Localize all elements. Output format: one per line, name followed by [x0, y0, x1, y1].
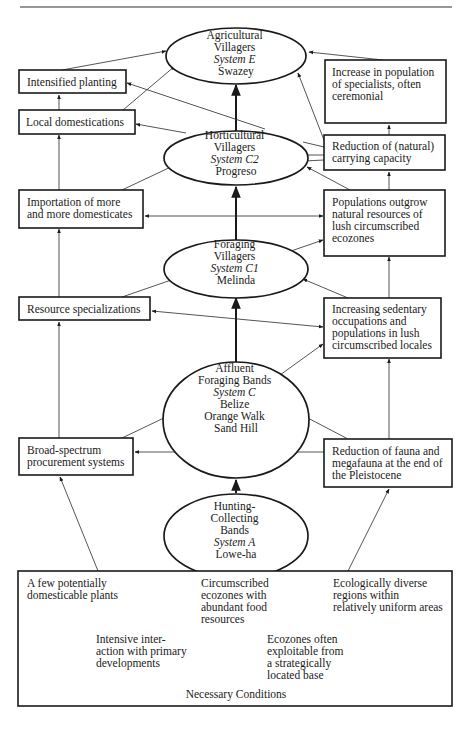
ellipse-affluent-foraging: Affluent Foraging Bands System C Belize … [163, 362, 309, 478]
flow-diagram: Agricultural Villagers System E Swazey H… [0, 0, 469, 733]
box-reduction-carrying: Reduction of (natural) carrying capacity [324, 135, 445, 170]
condition-few-plants: A few potentially domesticable plants [27, 577, 119, 602]
arrow-specialists-to-e [309, 52, 383, 60]
arrow-reduction-to-e [298, 73, 324, 140]
arrow-sedentary-to-c1 [303, 279, 348, 298]
box-importation-text: Importation of more and more domesticate… [27, 196, 133, 220]
arrow-resource-sedentary [152, 311, 323, 327]
box-local-domestications: Local domestications [19, 110, 135, 134]
box-broad-spectrum: Broad-spectrum procurement systems [19, 438, 133, 475]
ellipse-hunting-collecting: Hunting- Collecting Bands System A Lowe-… [164, 494, 308, 578]
arrow-c2-to-localdom [136, 124, 186, 133]
necessary-conditions-title: Necessary Conditions [186, 688, 287, 701]
arrow-resource-to-c1 [122, 278, 177, 297]
ellipse-foraging-villagers: Foraging Villagers System C1 Melinda [164, 238, 308, 298]
arrow-intensified-to-e [62, 51, 166, 70]
box-resource-specializations: Resource specializations [19, 297, 150, 320]
box-resource-specializations-text: Resource specializations [27, 303, 141, 316]
arrow-c1-to-outgrow [291, 240, 323, 251]
arrow-c2-to-intensified [127, 83, 265, 129]
box-increasing-sedentary: Increasing sedentary occupations and pop… [324, 298, 441, 358]
box-importation: Importation of more and more domesticate… [19, 190, 143, 228]
arrow-broad-to-c [122, 416, 168, 438]
arrow-conditions-to-fauna [348, 489, 389, 571]
box-populations-outgrow: Populations outgrow natural resources of… [324, 190, 445, 256]
arrow-fauna-to-c [304, 416, 348, 439]
box-local-domestications-text: Local domestications [26, 116, 125, 128]
ellipse-agricultural: Agricultural Villagers System E Swazey [166, 28, 306, 84]
box-increasing-sedentary-text: Increasing sedentary occupations and pop… [332, 303, 432, 351]
box-reduction-fauna: Reduction of fauna and megafauna at the … [324, 439, 452, 487]
arrow-localdom-to-e [123, 66, 175, 110]
necessary-conditions-box: A few potentially domesticable plants Ci… [18, 571, 452, 706]
ellipse-horticultural: Horticultural Villagers System C2 Progre… [164, 129, 308, 185]
box-intensified-planting: Intensified planting [19, 70, 126, 93]
arrow-importation-to-c2 [122, 165, 175, 190]
box-increase-specialists: Increase in population of specialists, o… [325, 60, 446, 123]
box-intensified-planting-text: Intensified planting [27, 76, 117, 89]
arrow-conditions-to-broad [60, 477, 98, 571]
arrow-c-to-sedentary [280, 344, 323, 375]
ellipse-foraging-villagers-text: Foraging Villagers System C1 Melinda [210, 238, 261, 286]
line-c2-to-reduction-1 [303, 142, 324, 147]
